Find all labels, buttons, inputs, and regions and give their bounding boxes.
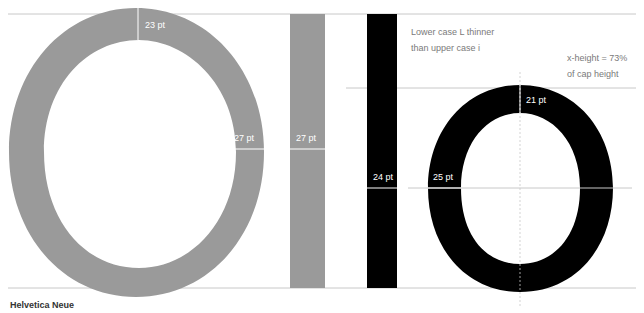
- lowercase-o-top-stroke-label: 21 pt: [526, 95, 546, 105]
- x-height-note: x-height = 73% of cap height: [567, 50, 627, 82]
- l-vs-i-note-line-2: than upper case i: [411, 40, 494, 56]
- lowercase-o-side-stroke-label: 25 pt: [433, 172, 453, 182]
- uppercase-i-stem-label: 27 pt: [296, 133, 316, 143]
- l-vs-i-note: Lower case L thinner than upper case i: [411, 24, 494, 56]
- uppercase-o-side-stroke-label: 27 pt: [234, 133, 254, 143]
- uppercase-o-glyph: [9, 8, 264, 297]
- font-name-caption: Helvetica Neue: [10, 300, 74, 310]
- lowercase-l-stem-label: 24 pt: [373, 172, 393, 182]
- lowercase-l-glyph: [367, 14, 397, 288]
- x-height-note-line-1: x-height = 73%: [567, 50, 627, 66]
- x-height-note-line-2: of cap height: [567, 66, 627, 82]
- uppercase-i-glyph: [290, 14, 325, 288]
- uppercase-o-top-stroke-label: 23 pt: [145, 20, 165, 30]
- glyph-diagram: [0, 0, 644, 313]
- l-vs-i-note-line-1: Lower case L thinner: [411, 24, 494, 40]
